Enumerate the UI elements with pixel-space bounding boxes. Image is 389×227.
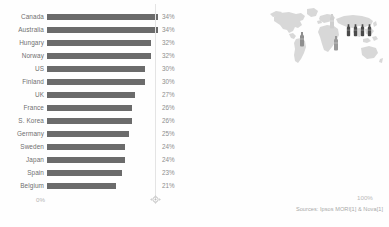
chart-page: Canada34%Australia34%Hungary32%Norway32%… <box>0 0 389 227</box>
bar-row: Belgium21% <box>0 179 230 192</box>
bar-track <box>47 88 158 101</box>
bar-fill <box>47 118 132 124</box>
bar-fill <box>47 66 145 72</box>
bar-fill <box>47 170 122 176</box>
world-map-panel <box>265 6 383 68</box>
bar-row: France26% <box>0 101 230 114</box>
bar-value-label: 32% <box>158 36 175 49</box>
bar-row: Australia34% <box>0 23 230 36</box>
source-note: Sources: Ipsos MORI[1] & Nova[1] <box>0 206 383 212</box>
map-pin-asia-1-icon <box>346 23 351 36</box>
bar-track <box>47 36 158 49</box>
axis-tick-min: 0% <box>36 196 45 203</box>
bar-category-label: Hungary <box>0 36 47 49</box>
bar-row: Norway32% <box>0 49 230 62</box>
bar-category-label: Belgium <box>0 179 47 192</box>
bar-row: Japan24% <box>0 153 230 166</box>
bar-value-label: 21% <box>158 179 175 192</box>
bar-value-label: 27% <box>158 88 175 101</box>
bar-value-label: 34% <box>158 10 175 23</box>
pin-marker-icon <box>329 14 335 29</box>
gridline-end-marker-icon <box>149 194 162 205</box>
bar-category-label: Norway <box>0 49 47 62</box>
bar-fill <box>47 92 135 98</box>
map-pin-asia-4-icon <box>367 23 372 36</box>
bar-value-label: 34% <box>158 23 175 36</box>
bar-track <box>47 114 158 127</box>
bar-track <box>47 101 158 114</box>
bar-category-label: Finland <box>0 75 47 88</box>
map-pin-asia-2-icon <box>353 23 358 36</box>
bar-fill <box>47 79 145 85</box>
pin-marker-icon <box>346 24 351 37</box>
pin-marker-icon <box>360 24 365 37</box>
bar-rows: Canada34%Australia34%Hungary32%Norway32%… <box>0 10 230 192</box>
bar-track <box>47 75 158 88</box>
bar-fill <box>47 144 125 150</box>
bar-row: UK27% <box>0 88 230 101</box>
bar-row: S. Korea26% <box>0 114 230 127</box>
bar-category-label: Spain <box>0 166 47 179</box>
bar-category-label: Canada <box>0 10 47 23</box>
pin-marker-icon <box>299 32 305 47</box>
bar-fill <box>47 157 125 163</box>
bar-category-label: Germany <box>0 127 47 140</box>
bar-value-label: 24% <box>158 140 175 153</box>
map-pin-asia-3-icon <box>360 23 365 36</box>
world-map-graphic <box>265 6 383 68</box>
bar-value-label: 30% <box>158 62 175 75</box>
axis-gridline <box>155 4 156 199</box>
bar-value-label: 26% <box>158 101 175 114</box>
bar-row: Finland30% <box>0 75 230 88</box>
pin-marker-icon <box>333 36 339 51</box>
bar-chart-panel: Canada34%Australia34%Hungary32%Norway32%… <box>0 0 230 227</box>
bar-category-label: US <box>0 62 47 75</box>
bar-track <box>47 23 158 36</box>
bar-row: Spain23% <box>0 166 230 179</box>
bar-fill <box>47 183 116 189</box>
bar-track <box>47 10 158 23</box>
bar-track <box>47 127 158 140</box>
map-pin-europe-north-icon <box>329 14 335 29</box>
bar-fill <box>47 53 151 59</box>
bar-row: Hungary32% <box>0 36 230 49</box>
bar-value-label: 30% <box>158 75 175 88</box>
pin-marker-icon <box>367 24 372 37</box>
bar-track <box>47 49 158 62</box>
bar-track <box>47 179 158 192</box>
bar-category-label: UK <box>0 88 47 101</box>
bar-fill <box>47 105 132 111</box>
bar-fill <box>47 40 151 46</box>
axis-tick-max: 100% <box>357 194 373 201</box>
bar-category-label: Australia <box>0 23 47 36</box>
bar-category-label: Sweden <box>0 140 47 153</box>
bar-fill <box>47 14 158 20</box>
bar-category-label: France <box>0 101 47 114</box>
bar-category-label: Japan <box>0 153 47 166</box>
bar-track <box>47 62 158 75</box>
bar-value-label: 24% <box>158 153 175 166</box>
bar-value-label: 32% <box>158 49 175 62</box>
map-pin-north-america-icon <box>299 32 305 47</box>
bar-track <box>47 166 158 179</box>
bar-row: US30% <box>0 62 230 75</box>
bar-value-label: 26% <box>158 114 175 127</box>
pin-marker-icon <box>353 24 358 37</box>
bar-fill <box>47 27 158 33</box>
map-pin-africa-icon <box>333 36 339 51</box>
bar-fill <box>47 131 129 137</box>
bar-category-label: S. Korea <box>0 114 47 127</box>
diamond-marker-icon <box>150 195 161 204</box>
bar-value-label: 25% <box>158 127 175 140</box>
bar-row: Sweden24% <box>0 140 230 153</box>
bar-row: Germany25% <box>0 127 230 140</box>
bar-track <box>47 153 158 166</box>
bar-value-label: 23% <box>158 166 175 179</box>
bar-track <box>47 140 158 153</box>
bar-row: Canada34% <box>0 10 230 23</box>
